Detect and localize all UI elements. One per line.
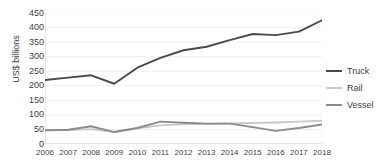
x-axis-tick-2007: 2007 — [59, 148, 77, 158]
legend-item-vessel[interactable]: Vessel — [326, 96, 386, 113]
x-axis-tick-2017: 2017 — [290, 148, 308, 158]
x-axis-tick-labels: 2006200720082009201020112012201320142015… — [45, 148, 322, 162]
x-axis-tick-2006: 2006 — [36, 148, 54, 158]
y-axis-tick-150: 150 — [29, 96, 44, 105]
x-axis-tick-2012: 2012 — [175, 148, 193, 158]
y-axis-tick-100: 100 — [29, 110, 44, 119]
y-axis-tick-400: 400 — [29, 23, 44, 32]
plot-svg — [45, 13, 322, 144]
legend-item-rail[interactable]: Rail — [326, 79, 386, 96]
x-axis-tick-2009: 2009 — [105, 148, 123, 158]
x-axis-tick-2011: 2011 — [152, 148, 169, 158]
line-swatch-vessel-icon — [326, 104, 342, 106]
legend-item-truck[interactable]: Truck — [326, 62, 386, 79]
line-swatch-rail-icon — [326, 87, 342, 89]
legend-label-rail: Rail — [347, 83, 363, 93]
x-axis-tick-2013: 2013 — [198, 148, 216, 158]
line-chart: US$ billions 050100150200250300350400450… — [0, 0, 387, 166]
y-axis-tick-450: 450 — [29, 9, 44, 18]
y-axis-tick-250: 250 — [29, 67, 44, 76]
x-axis-tick-2014: 2014 — [221, 148, 239, 158]
x-axis-tick-2015: 2015 — [244, 148, 262, 158]
x-axis-tick-2010: 2010 — [128, 148, 146, 158]
legend-label-truck: Truck — [347, 66, 369, 76]
y-axis-tick-300: 300 — [29, 52, 44, 61]
y-axis-tick-200: 200 — [29, 81, 44, 90]
x-axis-tick-2008: 2008 — [82, 148, 100, 158]
chart-legend: TruckRailVessel — [326, 62, 386, 113]
y-axis-tick-50: 50 — [34, 125, 44, 134]
series-line-truck — [45, 20, 322, 83]
line-swatch-truck-icon — [326, 70, 342, 72]
legend-label-vessel: Vessel — [347, 100, 374, 110]
plot-area — [45, 13, 322, 144]
x-axis-tick-2016: 2016 — [267, 148, 285, 158]
x-axis-tick-2018: 2018 — [313, 148, 331, 158]
y-axis-tick-350: 350 — [29, 38, 44, 47]
y-axis-tick-labels: 050100150200250300350400450 — [14, 0, 44, 166]
